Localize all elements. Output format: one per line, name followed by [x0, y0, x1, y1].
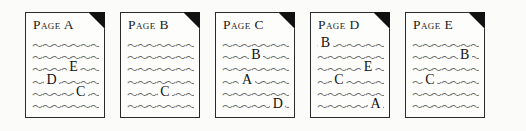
page-link-letter[interactable]: A: [239, 73, 254, 87]
text-line: 〜〜〜〜〜〜〜〜〜〜〜〜〜〜〜〜〜〜〜〜〜〜〜〜〜〜〜〜〜〜: [412, 101, 479, 113]
text-line: 〜〜〜〜〜〜〜〜〜〜〜〜〜〜〜〜〜〜〜〜〜〜〜〜〜〜〜〜〜〜B: [412, 52, 479, 64]
text-line: 〜〜〜〜〜〜〜〜〜〜〜〜〜〜〜〜〜〜〜〜〜〜〜〜〜〜〜〜〜〜C: [317, 77, 384, 89]
document-page[interactable]: Page B〜〜〜〜〜〜〜〜〜〜〜〜〜〜〜〜〜〜〜〜〜〜〜〜〜〜〜〜〜〜〜〜〜〜…: [120, 12, 200, 118]
page-link-letter[interactable]: C: [158, 85, 172, 99]
page-sheet: Page C〜〜〜〜〜〜〜〜〜〜〜〜〜〜〜〜〜〜〜〜〜〜〜〜〜〜〜〜〜〜〜〜〜〜…: [215, 12, 295, 118]
page-title: Page D: [318, 17, 360, 33]
text-line: 〜〜〜〜〜〜〜〜〜〜〜〜〜〜〜〜〜〜〜〜〜〜〜〜〜〜〜〜〜〜D: [32, 77, 99, 89]
page-link-letter[interactable]: A: [368, 97, 383, 111]
page-link-letter[interactable]: C: [74, 85, 88, 99]
text-line: 〜〜〜〜〜〜〜〜〜〜〜〜〜〜〜〜〜〜〜〜〜〜〜〜〜〜〜〜〜〜C: [412, 77, 479, 89]
squiggle-text-icon: 〜〜〜〜〜〜〜〜〜〜〜〜〜〜〜〜〜〜〜〜〜〜〜〜〜〜〜〜〜〜: [127, 43, 194, 50]
squiggle-text-icon: 〜〜〜〜〜〜〜〜〜〜〜〜〜〜〜〜〜〜〜〜〜〜〜〜〜〜〜〜〜〜: [317, 80, 384, 87]
page-sheet: Page A〜〜〜〜〜〜〜〜〜〜〜〜〜〜〜〜〜〜〜〜〜〜〜〜〜〜〜〜〜〜〜〜〜〜…: [25, 12, 105, 118]
squiggle-text-icon: 〜〜〜〜〜〜〜〜〜〜〜〜〜〜〜〜〜〜〜〜〜〜〜〜〜〜〜〜〜〜: [127, 104, 194, 111]
text-line: 〜〜〜〜〜〜〜〜〜〜〜〜〜〜〜〜〜〜〜〜〜〜〜〜〜〜〜〜〜〜: [222, 64, 289, 76]
page-sheet: Page E〜〜〜〜〜〜〜〜〜〜〜〜〜〜〜〜〜〜〜〜〜〜〜〜〜〜〜〜〜〜〜〜〜〜…: [405, 12, 485, 118]
document-page[interactable]: Page C〜〜〜〜〜〜〜〜〜〜〜〜〜〜〜〜〜〜〜〜〜〜〜〜〜〜〜〜〜〜〜〜〜〜…: [215, 12, 295, 118]
squiggle-text-icon: 〜〜〜〜〜〜〜〜〜〜〜〜〜〜〜〜〜〜〜〜〜〜〜〜〜〜〜〜〜〜: [127, 55, 194, 62]
page-text-lines: 〜〜〜〜〜〜〜〜〜〜〜〜〜〜〜〜〜〜〜〜〜〜〜〜〜〜〜〜〜〜B〜〜〜〜〜〜〜〜〜…: [317, 40, 384, 112]
page-text-lines: 〜〜〜〜〜〜〜〜〜〜〜〜〜〜〜〜〜〜〜〜〜〜〜〜〜〜〜〜〜〜〜〜〜〜〜〜〜〜〜〜…: [32, 40, 99, 112]
text-line: 〜〜〜〜〜〜〜〜〜〜〜〜〜〜〜〜〜〜〜〜〜〜〜〜〜〜〜〜〜〜E: [32, 64, 99, 76]
text-line: 〜〜〜〜〜〜〜〜〜〜〜〜〜〜〜〜〜〜〜〜〜〜〜〜〜〜〜〜〜〜B: [222, 52, 289, 64]
page-link-letter[interactable]: E: [361, 60, 375, 74]
page-sheet: Page B〜〜〜〜〜〜〜〜〜〜〜〜〜〜〜〜〜〜〜〜〜〜〜〜〜〜〜〜〜〜〜〜〜〜…: [120, 12, 200, 118]
text-line: 〜〜〜〜〜〜〜〜〜〜〜〜〜〜〜〜〜〜〜〜〜〜〜〜〜〜〜〜〜〜: [127, 40, 194, 52]
page-text-lines: 〜〜〜〜〜〜〜〜〜〜〜〜〜〜〜〜〜〜〜〜〜〜〜〜〜〜〜〜〜〜〜〜〜〜〜〜〜〜〜〜…: [127, 40, 194, 112]
page-title: Page A: [33, 17, 74, 33]
text-line: 〜〜〜〜〜〜〜〜〜〜〜〜〜〜〜〜〜〜〜〜〜〜〜〜〜〜〜〜〜〜: [412, 89, 479, 101]
page-sheet: Page D〜〜〜〜〜〜〜〜〜〜〜〜〜〜〜〜〜〜〜〜〜〜〜〜〜〜〜〜〜〜B〜〜〜…: [310, 12, 390, 118]
text-line: 〜〜〜〜〜〜〜〜〜〜〜〜〜〜〜〜〜〜〜〜〜〜〜〜〜〜〜〜〜〜: [127, 101, 194, 113]
text-line: 〜〜〜〜〜〜〜〜〜〜〜〜〜〜〜〜〜〜〜〜〜〜〜〜〜〜〜〜〜〜C: [127, 89, 194, 101]
squiggle-text-icon: 〜〜〜〜〜〜〜〜〜〜〜〜〜〜〜〜〜〜〜〜〜〜〜〜〜〜〜〜〜〜: [32, 55, 99, 62]
page-link-letter[interactable]: B: [318, 36, 332, 50]
squiggle-text-icon: 〜〜〜〜〜〜〜〜〜〜〜〜〜〜〜〜〜〜〜〜〜〜〜〜〜〜〜〜〜〜: [32, 67, 99, 74]
squiggle-text-icon: 〜〜〜〜〜〜〜〜〜〜〜〜〜〜〜〜〜〜〜〜〜〜〜〜〜〜〜〜〜〜: [32, 43, 99, 50]
squiggle-text-icon: 〜〜〜〜〜〜〜〜〜〜〜〜〜〜〜〜〜〜〜〜〜〜〜〜〜〜〜〜〜〜: [32, 104, 99, 111]
page-text-lines: 〜〜〜〜〜〜〜〜〜〜〜〜〜〜〜〜〜〜〜〜〜〜〜〜〜〜〜〜〜〜〜〜〜〜〜〜〜〜〜〜…: [412, 40, 479, 112]
page-link-letter[interactable]: E: [67, 60, 81, 74]
squiggle-text-icon: 〜〜〜〜〜〜〜〜〜〜〜〜〜〜〜〜〜〜〜〜〜〜〜〜〜〜〜〜〜〜: [412, 92, 479, 99]
page-link-letter[interactable]: B: [249, 48, 263, 62]
page-link-letter[interactable]: B: [458, 48, 472, 62]
squiggle-text-icon: 〜〜〜〜〜〜〜〜〜〜〜〜〜〜〜〜〜〜〜〜〜〜〜〜〜〜〜〜〜〜: [222, 67, 289, 74]
text-line: 〜〜〜〜〜〜〜〜〜〜〜〜〜〜〜〜〜〜〜〜〜〜〜〜〜〜〜〜〜〜D: [222, 101, 289, 113]
text-line: 〜〜〜〜〜〜〜〜〜〜〜〜〜〜〜〜〜〜〜〜〜〜〜〜〜〜〜〜〜〜: [32, 40, 99, 52]
page-link-letter[interactable]: C: [332, 73, 346, 87]
document-page[interactable]: Page A〜〜〜〜〜〜〜〜〜〜〜〜〜〜〜〜〜〜〜〜〜〜〜〜〜〜〜〜〜〜〜〜〜〜…: [25, 12, 105, 118]
text-line: 〜〜〜〜〜〜〜〜〜〜〜〜〜〜〜〜〜〜〜〜〜〜〜〜〜〜〜〜〜〜E: [317, 64, 384, 76]
page-link-letter[interactable]: D: [270, 97, 285, 111]
figure-canvas: Page A〜〜〜〜〜〜〜〜〜〜〜〜〜〜〜〜〜〜〜〜〜〜〜〜〜〜〜〜〜〜〜〜〜〜…: [0, 0, 526, 131]
page-link-letter[interactable]: D: [44, 73, 59, 87]
text-line: 〜〜〜〜〜〜〜〜〜〜〜〜〜〜〜〜〜〜〜〜〜〜〜〜〜〜〜〜〜〜: [32, 101, 99, 113]
squiggle-text-icon: 〜〜〜〜〜〜〜〜〜〜〜〜〜〜〜〜〜〜〜〜〜〜〜〜〜〜〜〜〜〜: [32, 80, 99, 87]
squiggle-text-icon: 〜〜〜〜〜〜〜〜〜〜〜〜〜〜〜〜〜〜〜〜〜〜〜〜〜〜〜〜〜〜: [32, 92, 99, 99]
text-line: 〜〜〜〜〜〜〜〜〜〜〜〜〜〜〜〜〜〜〜〜〜〜〜〜〜〜〜〜〜〜: [32, 52, 99, 64]
squiggle-text-icon: 〜〜〜〜〜〜〜〜〜〜〜〜〜〜〜〜〜〜〜〜〜〜〜〜〜〜〜〜〜〜: [127, 67, 194, 74]
text-line: 〜〜〜〜〜〜〜〜〜〜〜〜〜〜〜〜〜〜〜〜〜〜〜〜〜〜〜〜〜〜A: [317, 101, 384, 113]
text-line: 〜〜〜〜〜〜〜〜〜〜〜〜〜〜〜〜〜〜〜〜〜〜〜〜〜〜〜〜〜〜C: [32, 89, 99, 101]
document-page[interactable]: Page D〜〜〜〜〜〜〜〜〜〜〜〜〜〜〜〜〜〜〜〜〜〜〜〜〜〜〜〜〜〜B〜〜〜…: [310, 12, 390, 118]
page-link-letter[interactable]: C: [423, 73, 437, 87]
page-title: Page C: [223, 17, 264, 33]
text-line: 〜〜〜〜〜〜〜〜〜〜〜〜〜〜〜〜〜〜〜〜〜〜〜〜〜〜〜〜〜〜A: [222, 77, 289, 89]
squiggle-text-icon: 〜〜〜〜〜〜〜〜〜〜〜〜〜〜〜〜〜〜〜〜〜〜〜〜〜〜〜〜〜〜: [412, 104, 479, 111]
text-line: 〜〜〜〜〜〜〜〜〜〜〜〜〜〜〜〜〜〜〜〜〜〜〜〜〜〜〜〜〜〜: [127, 52, 194, 64]
page-text-lines: 〜〜〜〜〜〜〜〜〜〜〜〜〜〜〜〜〜〜〜〜〜〜〜〜〜〜〜〜〜〜〜〜〜〜〜〜〜〜〜〜…: [222, 40, 289, 112]
squiggle-text-icon: 〜〜〜〜〜〜〜〜〜〜〜〜〜〜〜〜〜〜〜〜〜〜〜〜〜〜〜〜〜〜: [222, 80, 289, 87]
text-line: 〜〜〜〜〜〜〜〜〜〜〜〜〜〜〜〜〜〜〜〜〜〜〜〜〜〜〜〜〜〜B: [317, 40, 384, 52]
page-title: Page E: [413, 17, 453, 33]
document-page[interactable]: Page E〜〜〜〜〜〜〜〜〜〜〜〜〜〜〜〜〜〜〜〜〜〜〜〜〜〜〜〜〜〜〜〜〜〜…: [405, 12, 485, 118]
text-line: 〜〜〜〜〜〜〜〜〜〜〜〜〜〜〜〜〜〜〜〜〜〜〜〜〜〜〜〜〜〜: [127, 64, 194, 76]
page-title: Page B: [128, 17, 169, 33]
